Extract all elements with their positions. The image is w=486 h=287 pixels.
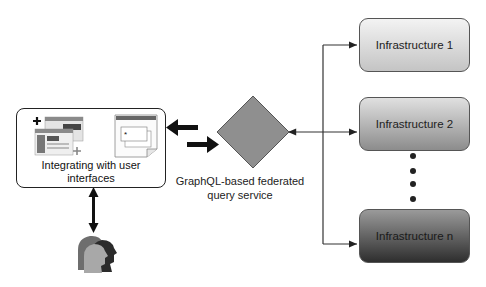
infrastructure-n-node: Infrastructure n — [359, 209, 470, 263]
thick-arrow-left — [166, 119, 198, 136]
central-diamond — [217, 96, 289, 168]
infrastructure-2-label: Infrastructure 2 — [376, 118, 453, 130]
ellipsis-dot — [410, 181, 416, 187]
ellipsis-dot — [410, 153, 416, 159]
ellipsis-dot — [410, 168, 416, 174]
thick-arrow-right — [187, 136, 219, 153]
infrastructure-n-label: Infrastructure n — [376, 230, 453, 242]
browser-windows-icon — [31, 115, 87, 159]
svg-text:*: * — [124, 130, 127, 139]
users-group-icon — [78, 236, 117, 273]
ui-box-label: Integrating with user interfaces — [17, 159, 165, 185]
user-interfaces-box: * Integrating with user interfaces — [16, 108, 166, 188]
infrastructure-1-node: Infrastructure 1 — [359, 18, 470, 72]
widget-document-icon: * — [113, 113, 159, 159]
graphql-label-line-1: GraphQL-based federated — [170, 174, 310, 188]
arrow-ui-users — [89, 187, 99, 233]
graphql-label-line-2: query service — [170, 188, 310, 202]
ellipsis-dot — [410, 196, 416, 202]
graphql-service-label: GraphQL-based federated query service — [170, 174, 310, 202]
infrastructure-2-node: Infrastructure 2 — [359, 97, 470, 151]
infrastructure-1-label: Infrastructure 1 — [376, 39, 453, 51]
